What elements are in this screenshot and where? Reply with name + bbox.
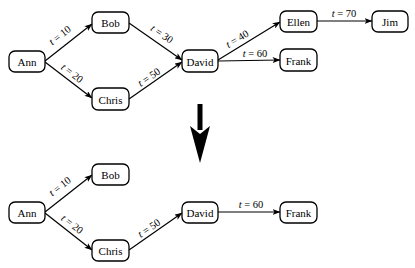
node-label: Chris (99, 94, 123, 106)
graph-diagram: t = 10t = 20t = 30t = 50t = 40t = 60t = … (0, 0, 415, 268)
node-david: David (182, 202, 218, 223)
edge-ann-chris: t = 20 (45, 61, 92, 98)
edge-label: t = 20 (59, 61, 85, 85)
bottom-graph: t = 10t = 20t = 50t = 60AnnBobChrisDavid… (9, 164, 317, 261)
node-ann: Ann (9, 202, 45, 223)
node-chris: Chris (92, 88, 129, 110)
node-label: Chris (99, 245, 123, 257)
node-label: Frank (286, 207, 312, 219)
node-label: Ann (18, 56, 37, 68)
node-label: Jim (382, 16, 398, 28)
edge-chris-david: t = 50 (129, 213, 182, 250)
node-bob: Bob (92, 12, 129, 33)
edge-label: t = 60 (243, 48, 268, 59)
node-bob: Bob (92, 164, 129, 185)
node-label: Bob (101, 17, 120, 29)
down-arrow-shaft (198, 104, 203, 130)
diagram-canvas: t = 10t = 20t = 30t = 50t = 40t = 60t = … (0, 0, 415, 268)
node-label: Bob (101, 169, 120, 181)
node-jim: Jim (372, 11, 408, 32)
edge-ann-bob: t = 10 (45, 23, 92, 61)
edge-ellen-jim: t = 70 (317, 8, 372, 21)
transition-arrow (190, 104, 210, 163)
node-label: David (187, 207, 214, 219)
node-label: Ann (18, 207, 37, 219)
edge-label: t = 70 (332, 8, 357, 19)
edge-chris-david: t = 50 (129, 62, 182, 99)
node-david: David (182, 50, 218, 72)
node-label: Ellen (287, 16, 311, 28)
edge-label: t = 30 (149, 23, 176, 46)
node-frank: Frank (280, 202, 317, 223)
edge-ann-chris: t = 20 (45, 212, 92, 250)
node-label: Frank (286, 55, 312, 67)
top-graph: t = 10t = 20t = 30t = 50t = 40t = 60t = … (9, 8, 408, 110)
node-label: David (187, 56, 214, 68)
edge-bob-david: t = 30 (129, 23, 182, 60)
edge-label: t = 20 (59, 212, 85, 236)
edge-label: t = 60 (239, 199, 264, 210)
node-frank: Frank (280, 49, 317, 71)
down-arrow-icon (190, 126, 210, 163)
node-ellen: Ellen (280, 11, 317, 32)
node-ann: Ann (9, 51, 45, 72)
edge-ann-bob: t = 10 (45, 174, 92, 212)
edge-david-frank: t = 60 (218, 199, 280, 212)
edge-label: t = 40 (224, 28, 251, 50)
edge-label: t = 10 (47, 23, 73, 47)
edge-label: t = 10 (47, 174, 73, 198)
node-chris: Chris (92, 240, 129, 261)
edge-arrow (218, 60, 280, 61)
